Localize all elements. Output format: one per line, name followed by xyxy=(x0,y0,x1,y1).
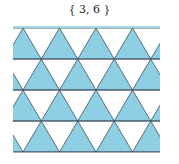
filled-triangle xyxy=(78,90,115,121)
filled-triangle xyxy=(41,90,78,121)
filled-triangle xyxy=(151,90,179,121)
filled-triangle xyxy=(0,28,5,59)
top-edge-band xyxy=(13,26,160,28)
filled-triangle xyxy=(114,28,151,59)
filled-triangle xyxy=(23,59,60,90)
filled-triangle xyxy=(96,121,133,152)
filled-triangle xyxy=(169,121,179,152)
filled-triangle xyxy=(0,121,23,152)
triangular-tiling-diagram xyxy=(0,0,179,164)
filled-triangle xyxy=(41,28,78,59)
filled-triangle xyxy=(60,59,97,90)
filled-triangle xyxy=(133,121,170,152)
filled-triangle xyxy=(5,90,42,121)
filled-triangle xyxy=(169,59,179,90)
filled-triangle xyxy=(78,28,115,59)
filled-triangle xyxy=(60,121,97,152)
filled-triangle xyxy=(5,28,42,59)
filled-triangle xyxy=(133,59,170,90)
filled-triangle xyxy=(114,90,151,121)
filled-triangle xyxy=(151,28,179,59)
filled-triangle xyxy=(96,59,133,90)
filled-triangle xyxy=(0,90,5,121)
filled-triangle xyxy=(23,121,60,152)
filled-triangle xyxy=(0,59,23,90)
